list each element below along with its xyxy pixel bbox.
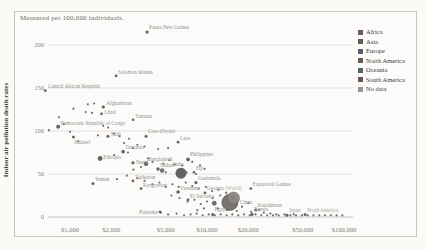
data-point[interactable] xyxy=(143,145,145,147)
data-point-papua-new-guinea[interactable] xyxy=(145,30,148,33)
data-point[interactable] xyxy=(289,214,291,216)
data-point[interactable] xyxy=(167,147,169,149)
data-point[interactable] xyxy=(127,151,129,153)
data-point--world-[interactable] xyxy=(227,192,239,204)
data-point[interactable] xyxy=(185,182,187,184)
data-point-palestine[interactable] xyxy=(159,210,162,213)
data-point[interactable] xyxy=(231,213,233,215)
data-point-kyrgyzstan[interactable] xyxy=(140,187,143,190)
data-point-egypt[interactable] xyxy=(211,213,214,216)
data-point-el-salvador[interactable] xyxy=(187,198,190,201)
data-point-tanzania[interactable] xyxy=(121,150,125,154)
data-point[interactable] xyxy=(193,199,195,201)
data-point-fiji[interactable] xyxy=(193,171,196,174)
legend-item-south-america[interactable]: South America xyxy=(358,77,405,84)
data-point[interactable] xyxy=(140,166,142,168)
data-point[interactable] xyxy=(341,214,343,216)
data-point[interactable] xyxy=(72,108,74,110)
data-point[interactable] xyxy=(126,175,128,177)
data-point[interactable] xyxy=(208,213,210,215)
data-point-mali[interactable] xyxy=(106,135,109,138)
legend-item-oceania[interactable]: Oceania xyxy=(358,67,405,74)
data-point[interactable] xyxy=(87,103,89,105)
data-point[interactable] xyxy=(97,134,99,136)
data-point[interactable] xyxy=(269,212,271,214)
data-point-nepal[interactable] xyxy=(131,161,134,164)
data-point-philippines[interactable] xyxy=(186,157,190,161)
data-point[interactable] xyxy=(200,203,202,205)
data-point-vanuatu[interactable] xyxy=(132,119,135,122)
data-point[interactable] xyxy=(220,213,222,215)
data-point[interactable] xyxy=(266,214,268,216)
data-point[interactable] xyxy=(165,171,167,173)
data-point[interactable] xyxy=(167,213,169,215)
data-point[interactable] xyxy=(195,173,197,175)
data-point[interactable] xyxy=(203,168,205,170)
data-point[interactable] xyxy=(170,194,172,196)
data-point[interactable] xyxy=(335,214,337,216)
data-point[interactable] xyxy=(157,148,159,150)
data-point[interactable] xyxy=(275,213,277,215)
data-point[interactable] xyxy=(225,192,227,194)
data-point[interactable] xyxy=(260,214,262,216)
data-point[interactable] xyxy=(191,161,193,163)
data-point[interactable] xyxy=(128,138,130,140)
data-point[interactable] xyxy=(132,169,134,171)
data-point[interactable] xyxy=(324,214,326,216)
data-point[interactable] xyxy=(196,209,198,211)
legend-item-north-america[interactable]: North America xyxy=(358,58,405,65)
data-point[interactable] xyxy=(236,210,238,212)
data-point-guatemala[interactable] xyxy=(194,181,197,184)
data-point[interactable] xyxy=(250,211,252,213)
data-point[interactable] xyxy=(237,214,239,216)
data-point[interactable] xyxy=(190,213,192,215)
data-point[interactable] xyxy=(225,214,227,216)
data-point[interactable] xyxy=(283,213,285,215)
data-point[interactable] xyxy=(301,214,303,216)
data-point[interactable] xyxy=(176,212,178,214)
data-point[interactable] xyxy=(278,214,280,216)
data-point[interactable] xyxy=(295,214,297,216)
legend-item-europe[interactable]: Europe xyxy=(358,48,405,55)
data-point[interactable] xyxy=(48,129,50,131)
data-point-central-african-republic[interactable] xyxy=(44,89,47,92)
legend-item-no-data[interactable]: No data xyxy=(358,86,405,93)
data-point[interactable] xyxy=(178,197,180,199)
data-point[interactable] xyxy=(330,214,332,216)
data-point[interactable] xyxy=(91,112,93,114)
data-point[interactable] xyxy=(312,214,314,216)
legend-item-asia[interactable]: Asia xyxy=(358,39,405,46)
data-point[interactable] xyxy=(198,188,200,190)
data-point-equatorial-guinea[interactable] xyxy=(249,187,252,190)
data-point-cote-d-ivoire[interactable] xyxy=(145,135,148,138)
data-point-japan[interactable] xyxy=(285,214,288,217)
data-point-tajikistan[interactable] xyxy=(132,179,135,182)
data-point[interactable] xyxy=(69,131,71,133)
data-point[interactable] xyxy=(206,200,208,202)
legend-item-africa[interactable]: Africa xyxy=(358,29,405,36)
data-point-india[interactable] xyxy=(176,168,187,179)
data-point[interactable] xyxy=(93,102,95,104)
data-point[interactable] xyxy=(58,116,60,118)
data-point[interactable] xyxy=(183,214,185,216)
data-point[interactable] xyxy=(243,213,245,215)
data-point[interactable] xyxy=(202,214,204,216)
data-point[interactable] xyxy=(171,183,173,185)
data-point-laos[interactable] xyxy=(177,141,180,144)
data-point[interactable] xyxy=(307,214,309,216)
data-point[interactable] xyxy=(203,207,205,209)
data-point[interactable] xyxy=(293,213,295,215)
data-point-chad[interactable] xyxy=(100,112,103,115)
data-point[interactable] xyxy=(107,126,109,128)
data-point[interactable] xyxy=(85,111,87,113)
data-point[interactable] xyxy=(272,214,274,216)
data-point[interactable] xyxy=(219,194,221,196)
data-point-solomon-islands[interactable] xyxy=(115,75,118,78)
data-point[interactable] xyxy=(318,214,320,216)
data-point[interactable] xyxy=(196,212,198,214)
data-point[interactable] xyxy=(254,213,256,215)
data-point[interactable] xyxy=(116,178,118,180)
data-point[interactable] xyxy=(160,168,164,172)
data-point-russia[interactable] xyxy=(250,213,253,216)
data-point[interactable] xyxy=(241,206,243,208)
